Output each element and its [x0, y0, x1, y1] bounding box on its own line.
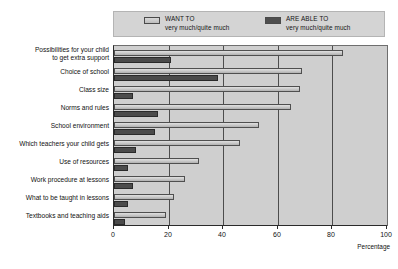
- x-axis-tick: [386, 225, 387, 229]
- category-label-line: Textbooks and teaching aids: [26, 212, 109, 220]
- x-axis-line: [113, 225, 387, 226]
- legend-label-want-to: WANT TO: [165, 15, 230, 24]
- category-label: Which teachers your child gets: [19, 140, 109, 148]
- x-axis-tick-label: 100: [380, 231, 392, 238]
- bar-are-able-to: [114, 219, 125, 225]
- category-label-line: School environment: [51, 122, 109, 130]
- x-axis-tick: [277, 225, 278, 229]
- category-label: Use of resources: [59, 158, 109, 166]
- x-axis-tick: [222, 225, 223, 229]
- bar-want-to: [114, 194, 174, 200]
- category-label-line: Use of resources: [59, 158, 109, 166]
- legend-entry-want-to: WANT TO very much/quite much: [144, 15, 230, 32]
- bar-group: [114, 172, 387, 190]
- category-label: Textbooks and teaching aids: [26, 212, 109, 220]
- category-label-line: to get extra support: [35, 54, 109, 62]
- bar-want-to: [114, 158, 199, 164]
- bar-want-to: [114, 176, 185, 182]
- x-axis-tick: [331, 225, 332, 229]
- category-label: Choice of school: [60, 68, 109, 76]
- bar-are-able-to: [114, 93, 133, 99]
- bar-want-to: [114, 212, 166, 218]
- bar-group: [114, 136, 387, 154]
- category-label-line: Choice of school: [60, 68, 109, 76]
- category-label-line: Which teachers your child gets: [19, 140, 109, 148]
- x-axis-tick: [113, 225, 114, 229]
- x-axis-tick-label: 0: [111, 231, 115, 238]
- bar-want-to: [114, 104, 291, 110]
- x-axis-tick-label: 20: [164, 231, 172, 238]
- category-label: Class size: [79, 86, 109, 94]
- bar-are-able-to: [114, 57, 171, 63]
- bar-group: [114, 208, 387, 226]
- bar-want-to: [114, 68, 302, 74]
- bar-group: [114, 46, 387, 64]
- x-axis-tick-label: 80: [327, 231, 335, 238]
- bar-group: [114, 190, 387, 208]
- bar-group: [114, 154, 387, 172]
- bar-are-able-to: [114, 129, 155, 135]
- bar-chart: WANT TO very much/quite much ARE ABLE TO…: [0, 0, 398, 269]
- category-label-line: Class size: [79, 86, 109, 94]
- bar-are-able-to: [114, 75, 218, 81]
- legend-entry-are-able-to: ARE ABLE TO very much/quite much: [265, 15, 351, 32]
- legend-swatch-want-to: [144, 17, 160, 24]
- category-label-line: What to be taught in lessons: [26, 194, 109, 202]
- bar-are-able-to: [114, 111, 158, 117]
- legend-sublabel-are-able-to: very much/quite much: [286, 24, 351, 33]
- plot-inner: [114, 46, 387, 226]
- legend-sublabel-want-to: very much/quite much: [165, 24, 230, 33]
- bar-are-able-to: [114, 201, 128, 207]
- bar-group: [114, 118, 387, 136]
- category-label: School environment: [51, 122, 109, 130]
- bar-group: [114, 82, 387, 100]
- bar-are-able-to: [114, 183, 133, 189]
- category-label-line: Norms and rules: [61, 104, 109, 112]
- bar-group: [114, 100, 387, 118]
- category-label: Possibilities for your childto get extra…: [35, 46, 109, 62]
- category-label-line: Possibilities for your child: [35, 46, 109, 54]
- bar-are-able-to: [114, 165, 128, 171]
- plot-area: [113, 45, 388, 226]
- bar-are-able-to: [114, 147, 136, 153]
- x-axis-tick-label: 60: [273, 231, 281, 238]
- x-axis-tick: [168, 225, 169, 229]
- bar-group: [114, 64, 387, 82]
- bar-want-to: [114, 140, 240, 146]
- bar-want-to: [114, 86, 300, 92]
- category-label: What to be taught in lessons: [26, 194, 109, 202]
- x-axis-title: Percentage: [357, 243, 390, 250]
- category-label: Work procedure at lessons: [31, 176, 109, 184]
- bar-want-to: [114, 50, 343, 56]
- x-axis-tick-label: 40: [218, 231, 226, 238]
- legend-swatch-are-able-to: [265, 17, 281, 24]
- bar-want-to: [114, 122, 259, 128]
- category-label-line: Work procedure at lessons: [31, 176, 109, 184]
- category-label: Norms and rules: [61, 104, 109, 112]
- legend-label-are-able-to: ARE ABLE TO: [286, 15, 351, 24]
- chart-legend: WANT TO very much/quite much ARE ABLE TO…: [113, 11, 385, 37]
